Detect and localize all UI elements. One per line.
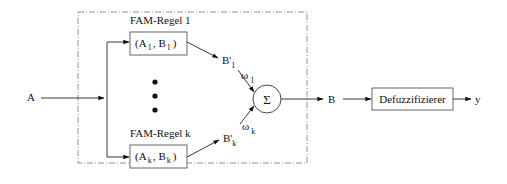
sigma-icon: Σ [263, 92, 271, 107]
rule-k-title: FAM-Regel k [130, 127, 191, 139]
ellipsis-dot [152, 93, 157, 98]
rule-1-output-arrow [187, 42, 218, 58]
rule-k-output-arrow [187, 140, 219, 157]
rule-1-title: FAM-Regel 1 [130, 14, 191, 26]
rule-1-output-label: B'1 [222, 54, 235, 70]
ellipsis-dot [152, 79, 157, 84]
defuzzifier-label: Defuzzifizierer [379, 93, 446, 105]
sum-output-label: B [328, 93, 335, 105]
output-label-y: y [475, 93, 481, 105]
ellipsis-dot [152, 107, 157, 112]
rule-k-output-label: B'k [223, 132, 236, 148]
fam-system-diagram: A FAM-Regel 1 (A1,B1) B'1 ω1 FAM-Regel k… [0, 0, 507, 184]
input-label-a: A [27, 91, 35, 103]
weight-k-label: ωk [242, 120, 255, 136]
